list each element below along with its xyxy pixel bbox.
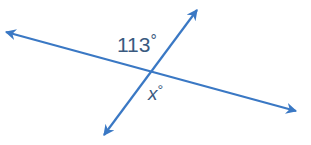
diagram-canvas: 113° x° — [0, 0, 311, 145]
degree-symbol: ° — [150, 32, 156, 49]
known-angle-value: 113 — [117, 33, 150, 56]
degree-symbol: ° — [158, 82, 164, 98]
unknown-angle-label: x° — [148, 83, 163, 105]
unknown-angle-variable: x — [148, 83, 158, 104]
intersecting-lines-figure — [0, 0, 311, 145]
known-angle-label: 113° — [117, 33, 157, 57]
line-b — [104, 10, 197, 135]
